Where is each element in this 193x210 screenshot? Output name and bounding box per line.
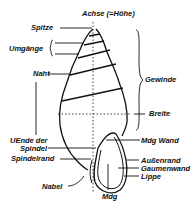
shell-diagram: Achse (=Höhe) Spitze Umgänge Naht Gewind… [0, 0, 193, 210]
label-width: Breite [149, 110, 170, 118]
label-apex: Spitze [31, 24, 53, 32]
label-lower-end-spindle-2: Spindel [20, 145, 47, 153]
label-columellar-margin: Spindelrand [11, 155, 54, 163]
label-suture: Naht [33, 70, 50, 78]
label-aperture: Mdg [102, 193, 117, 201]
shell-outline-right [96, 29, 127, 136]
label-axis: Achse (=Höhe) [82, 10, 135, 18]
shell-outline-left [59, 29, 93, 170]
label-spire: Gewinde [145, 76, 176, 84]
label-whorls: Umgänge [9, 45, 43, 53]
label-umbilicus: Nabel [42, 183, 62, 191]
shell-drawing [0, 0, 193, 210]
label-lip: Lippe [141, 173, 161, 181]
label-aperture-wall: Mdg Wand [141, 137, 179, 145]
